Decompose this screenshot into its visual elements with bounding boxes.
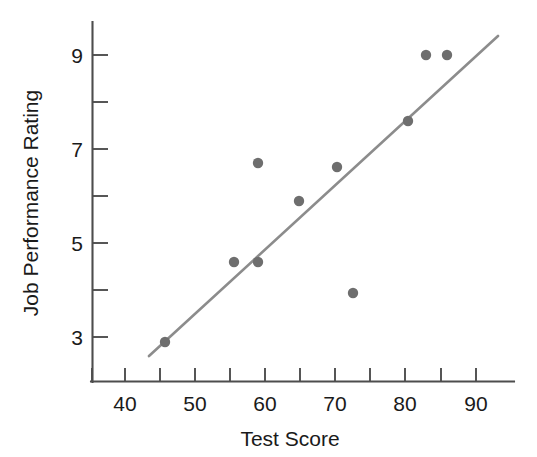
x-axis-ticks [92,368,476,381]
y-tick-label-7: 7 [71,138,83,161]
data-point [160,337,170,347]
x-tick-label-40: 40 [113,392,136,415]
y-axis-tick-labels: 9 7 5 3 [71,44,83,349]
data-point [294,196,304,206]
y-tick-label-5: 5 [71,232,83,255]
y-tick-label-9: 9 [71,44,83,67]
x-tick-label-90: 90 [464,392,487,415]
regression-line [149,36,498,356]
x-tick-label-60: 60 [253,392,276,415]
y-axis-title: Job Performance Rating [19,90,42,316]
data-point [253,257,263,267]
x-tick-label-50: 50 [183,392,206,415]
data-point [421,50,431,60]
plot-canvas: 9 7 5 3 40 50 60 70 80 90 [0,0,537,457]
data-point [348,288,358,298]
x-axis-title: Test Score [240,427,339,450]
data-point [442,50,452,60]
y-axis-ticks [93,55,108,337]
x-tick-label-70: 70 [323,392,346,415]
x-axis-tick-labels: 40 50 60 70 80 90 [113,392,487,415]
x-tick-label-80: 80 [393,392,416,415]
data-point [332,162,342,172]
scatter-plot-figure: 9 7 5 3 40 50 60 70 80 90 [0,0,537,457]
data-point [403,116,413,126]
y-tick-label-3: 3 [71,326,83,349]
data-point [229,257,239,267]
data-points-group [160,50,452,347]
data-point [253,158,263,168]
